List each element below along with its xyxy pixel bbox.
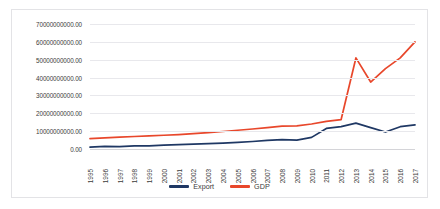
x-axis-tick-text: 2017	[412, 169, 419, 183]
x-axis-tick-text: 1997	[116, 169, 123, 183]
x-axis-tick-text: 2013	[352, 169, 359, 183]
x-axis-tick-text: 2001	[175, 169, 182, 183]
y-axis-tick-label: 20000000000.00	[36, 110, 82, 117]
gridline	[90, 42, 415, 43]
x-axis-tick-text: 2007	[264, 169, 271, 183]
gridline	[90, 131, 415, 132]
legend-swatch-gdp	[230, 185, 250, 187]
y-axis-tick-label: 30000000000.00	[36, 92, 82, 99]
x-axis-tick-text: 2002	[190, 169, 197, 183]
legend-label: GDP	[254, 182, 270, 191]
chart-card: 70000000000.0060000000000.0050000000000.…	[11, 9, 428, 198]
x-axis-tick-text: 2005	[234, 169, 241, 183]
legend-item-gdp[interactable]: GDP	[230, 182, 270, 191]
x-axis-tick-text: 1996	[101, 169, 108, 183]
y-axis-tick-label: 40000000000.00	[36, 74, 82, 81]
x-axis-line	[90, 149, 415, 150]
y-axis-tick-label: 50000000000.00	[36, 56, 82, 63]
x-axis-tick-text: 2016	[397, 169, 404, 183]
x-axis-tick-text: 2014	[367, 169, 374, 183]
x-axis-tick-text: 2006	[249, 169, 256, 183]
x-axis: 1995199619971998199920002001200220032004…	[90, 151, 415, 185]
gridline	[90, 24, 415, 25]
series-line-export	[90, 123, 415, 147]
x-axis-tick-text: 2015	[382, 169, 389, 183]
x-axis-tick-text: 2011	[323, 169, 330, 183]
y-axis-tick-label: 0.00	[70, 146, 82, 153]
x-axis-tick-text: 2003	[205, 169, 212, 183]
y-axis-tick-label: 70000000000.00	[36, 21, 82, 28]
x-axis-tick-text: 2000	[160, 169, 167, 183]
x-axis-tick-text: 2008	[279, 169, 286, 183]
gridline	[90, 60, 415, 61]
x-axis-tick-text: 1998	[131, 169, 138, 183]
series-line-gdp	[90, 42, 415, 139]
x-axis-tick-text: 2004	[219, 169, 226, 183]
y-axis-tick-label: 10000000000.00	[36, 128, 82, 135]
gridline	[90, 78, 415, 79]
chart-legend: ExportGDP	[12, 182, 427, 191]
legend-label: Export	[193, 182, 214, 191]
legend-item-export[interactable]: Export	[169, 182, 214, 191]
x-axis-tick-text: 1999	[146, 169, 153, 183]
x-axis-tick-text: 2009	[293, 169, 300, 183]
x-axis-tick-text: 1995	[87, 169, 94, 183]
x-axis-tick-text: 2012	[338, 169, 345, 183]
gridline	[90, 113, 415, 114]
y-axis: 70000000000.0060000000000.0050000000000.…	[12, 24, 86, 149]
legend-swatch-export	[169, 185, 189, 187]
x-axis-tick-text: 2010	[308, 169, 315, 183]
plot-area	[90, 24, 415, 149]
gridline	[90, 95, 415, 96]
y-axis-tick-label: 60000000000.00	[36, 38, 82, 45]
